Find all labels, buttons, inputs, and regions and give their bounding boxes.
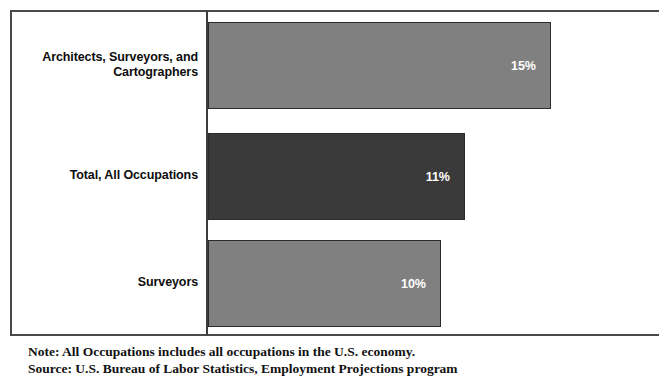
bar: 15% <box>208 22 551 109</box>
plot-area: Architects, Surveyors, and Cartographers… <box>12 12 659 334</box>
bar-row: Surveyors 10% <box>12 240 659 336</box>
category-label: Architects, Surveyors, and Cartographers <box>12 50 198 80</box>
category-label-line2: Cartographers <box>113 65 198 79</box>
bar: 10% <box>208 240 441 327</box>
bar: 11% <box>208 133 465 220</box>
category-label-line1: Architects, Surveyors, and <box>42 50 198 64</box>
bar-value-label: 10% <box>401 277 440 291</box>
category-label: Surveyors <box>12 275 198 290</box>
footer-source-line: Source: U.S. Bureau of Labor Statistics,… <box>28 360 648 377</box>
bar-chart-figure: Architects, Surveyors, and Cartographers… <box>0 0 659 386</box>
category-label: Total, All Occupations <box>12 168 198 183</box>
chart-footer-notes: Note: All Occupations includes all occup… <box>28 343 648 377</box>
footer-note-line: Note: All Occupations includes all occup… <box>28 343 648 360</box>
bar-row: Architects, Surveyors, and Cartographers… <box>12 22 659 118</box>
bar-value-label: 15% <box>511 59 550 73</box>
category-label-line1: Surveyors <box>138 275 198 289</box>
bar-value-label: 11% <box>426 170 464 184</box>
category-label-line1: Total, All Occupations <box>70 168 198 182</box>
bar-row: Total, All Occupations 11% <box>12 133 659 229</box>
